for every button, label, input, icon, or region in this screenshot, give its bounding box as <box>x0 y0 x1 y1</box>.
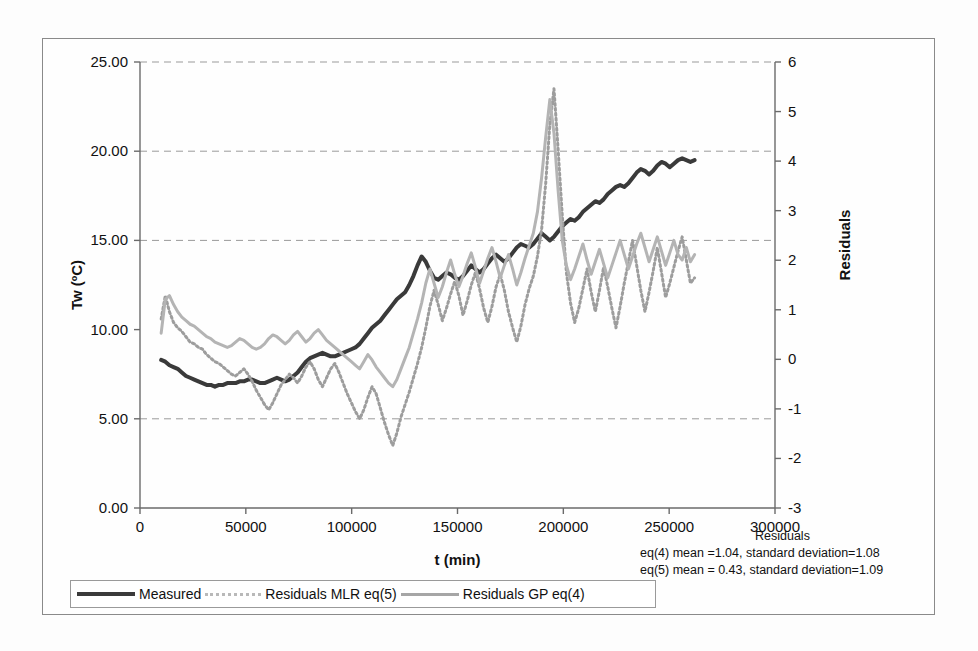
annotation-residuals-title: Residuals <box>755 529 810 543</box>
figure-container: 0.005.0010.0015.0020.0025.00-3-2-1012345… <box>0 0 978 651</box>
annotation-eq4-stats: eq(4) mean =1.04, standard deviation=1.0… <box>640 546 880 560</box>
axis-tick-label: -3 <box>788 499 801 516</box>
axis-tick-label: 150000 <box>432 518 482 535</box>
axis-tick-label: 6 <box>788 53 796 70</box>
axis-tick-label: -1 <box>788 400 801 417</box>
series-lines-group <box>161 89 694 446</box>
axis-tick-label: 5.00 <box>99 410 128 427</box>
legend-label-measured: Measured <box>139 586 201 602</box>
axis-tick-label: 3 <box>788 202 796 219</box>
legend-label-residuals-gp: Residuals GP eq(4) <box>463 586 585 602</box>
axis-tick-label: 250000 <box>644 518 694 535</box>
legend-swatch-measured-icon <box>77 592 135 596</box>
axis-title: Tw (ºC) <box>68 260 85 310</box>
legend-swatch-gp-icon <box>401 593 459 596</box>
chart-legend: Measured Residuals MLR eq(5) Residuals G… <box>70 580 656 608</box>
axis-tick-label: 200000 <box>538 518 588 535</box>
axis-tick-label: 0 <box>788 350 796 367</box>
axis-tick-label: 10.00 <box>90 321 128 338</box>
legend-item-residuals-gp[interactable]: Residuals GP eq(4) <box>401 586 585 602</box>
axis-tick-label: 25.00 <box>90 53 128 70</box>
legend-item-measured[interactable]: Measured <box>77 586 201 602</box>
legend-label-residuals-mlr: Residuals MLR eq(5) <box>265 586 397 602</box>
axis-tick-label: 1 <box>788 301 796 318</box>
annotation-eq5-stats: eq(5) mean = 0.43, standard deviation=1.… <box>640 563 883 577</box>
legend-swatch-mlr-icon <box>205 593 261 596</box>
axis-tick-label: -2 <box>788 449 801 466</box>
axis-tick-label: 4 <box>788 152 796 169</box>
axis-tick-label: 0 <box>136 518 144 535</box>
axis-title: Residuals <box>836 210 853 281</box>
axis-tick-label: 100000 <box>327 518 377 535</box>
axis-tick-label: 15.00 <box>90 231 128 248</box>
axis-title: t (min) <box>435 551 481 568</box>
series-line-residuals-gp-eq-4 <box>161 99 694 386</box>
axis-labels-group: 0.005.0010.0015.0020.0025.00-3-2-1012345… <box>68 53 853 568</box>
axis-tick-label: 0.00 <box>99 499 128 516</box>
axis-tick-label: 2 <box>788 251 796 268</box>
axis-tick-label: 20.00 <box>90 142 128 159</box>
legend-item-residuals-mlr[interactable]: Residuals MLR eq(5) <box>205 586 397 602</box>
axis-tick-label: 5 <box>788 103 796 120</box>
axis-tick-label: 50000 <box>225 518 267 535</box>
